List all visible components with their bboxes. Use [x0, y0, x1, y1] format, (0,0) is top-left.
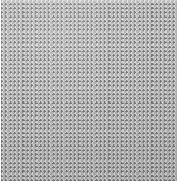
warp-threads-vertical-alternate [1, 0, 177, 181]
screenshot-canvas [0, 0, 180, 191]
right-margin [177, 0, 180, 191]
woven-mesh-texture [1, 0, 177, 181]
left-margin [0, 0, 1, 191]
bottom-margin [0, 181, 180, 191]
